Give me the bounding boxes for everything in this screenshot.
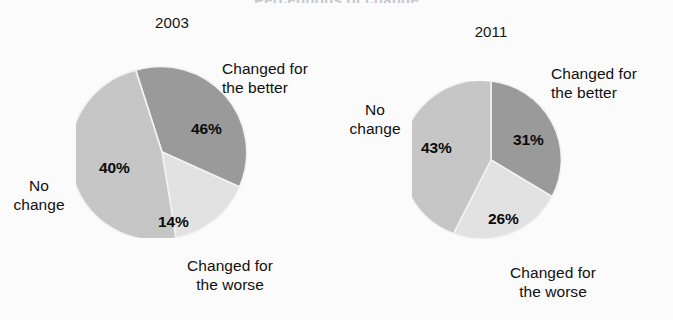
callout-line-2: change — [13, 196, 64, 213]
cropped-title-fragment: Perceptions of change — [0, 0, 673, 3]
callout-changed-for-the-worse-2003: Changed for the worse — [165, 256, 295, 294]
callout-line-1: No — [29, 177, 49, 194]
slice-value-no-change-2011: 43% — [421, 139, 452, 157]
slice-value-no-change-2003: 40% — [99, 159, 130, 177]
slice-value-better-2003: 46% — [191, 120, 222, 138]
slice-value-worse-2003: 14% — [158, 213, 189, 231]
callout-line-2: the better — [551, 84, 617, 101]
callout-no-change-2003: No change — [0, 176, 78, 214]
callout-line-1: No — [365, 101, 385, 118]
callout-line-1: Changed for — [187, 257, 273, 274]
callout-changed-for-the-better-2003: Changed for the better — [222, 59, 308, 97]
callout-line-1: Changed for — [510, 264, 596, 281]
callout-line-1: Changed for — [222, 60, 308, 77]
callout-line-1: Changed for — [551, 65, 637, 82]
callout-changed-for-the-better-2011: Changed for the better — [551, 64, 637, 102]
chart-right-year-label: 2011 — [461, 23, 521, 40]
slice-value-worse-2011: 26% — [488, 210, 519, 228]
callout-line-2: change — [349, 120, 400, 137]
callout-line-2: the worse — [519, 283, 587, 300]
pie-slices-2011 — [412, 81, 561, 239]
pie-chart-figure: Perceptions of change 2003 46% 40% 14% C… — [0, 0, 673, 320]
callout-line-2: the better — [222, 79, 288, 96]
callout-no-change-2011: No change — [336, 100, 414, 138]
callout-line-2: the worse — [196, 276, 264, 293]
slice-value-better-2011: 31% — [513, 131, 544, 149]
chart-left-year-label: 2003 — [142, 14, 202, 31]
callout-changed-for-the-worse-2011: Changed for the worse — [488, 263, 618, 301]
